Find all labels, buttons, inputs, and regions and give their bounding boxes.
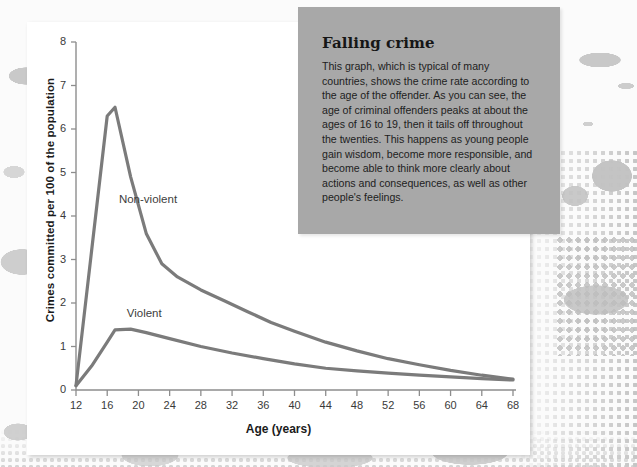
x-tick-68: 68	[500, 399, 526, 411]
y-tick-4: 4	[44, 209, 66, 221]
y-tick-1: 1	[44, 340, 66, 352]
x-tick-56: 56	[406, 399, 432, 411]
x-tick-28: 28	[188, 399, 214, 411]
series-label-non-violent: Non-violent	[119, 193, 177, 205]
y-tick-8: 8	[44, 35, 66, 47]
x-tick-12: 12	[63, 399, 89, 411]
y-axis-title: Crimes committed per 100 of the populati…	[44, 20, 56, 380]
x-tick-36: 36	[250, 399, 276, 411]
y-tick-3: 3	[44, 253, 66, 265]
x-tick-52: 52	[375, 399, 401, 411]
background-halftone-dots-corner	[556, 236, 637, 356]
series-label-violent: Violent	[127, 307, 162, 319]
x-tick-16: 16	[94, 399, 120, 411]
x-tick-24: 24	[157, 399, 183, 411]
y-tick-7: 7	[44, 79, 66, 91]
y-tick-5: 5	[44, 166, 66, 178]
y-tick-2: 2	[44, 296, 66, 308]
x-tick-40: 40	[282, 399, 308, 411]
x-axis-title: Age (years)	[27, 422, 530, 436]
x-tick-64: 64	[469, 399, 495, 411]
x-tick-32: 32	[219, 399, 245, 411]
y-tick-6: 6	[44, 122, 66, 134]
falling-crime-callout-box: Falling crime This graph, which is typic…	[298, 7, 560, 234]
x-tick-44: 44	[313, 399, 339, 411]
callout-title: Falling crime	[322, 34, 534, 52]
page-root: Crimes committed per 100 of the populati…	[0, 0, 637, 467]
x-tick-48: 48	[344, 399, 370, 411]
x-tick-20: 20	[125, 399, 151, 411]
x-tick-60: 60	[438, 399, 464, 411]
y-tick-0: 0	[44, 383, 66, 395]
callout-body-text: This graph, which is typical of many cou…	[322, 59, 534, 205]
